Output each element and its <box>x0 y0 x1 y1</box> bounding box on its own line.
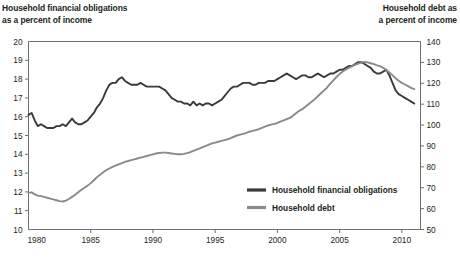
y-axis-tick-label-right: 60 <box>427 204 437 214</box>
y-axis-tick-label-right: 120 <box>427 78 441 88</box>
y-axis-tick-label-right: 90 <box>427 141 437 151</box>
y-axis-tick-label-left: 14 <box>13 149 23 159</box>
y-axis-tick-label-left: 15 <box>13 131 23 141</box>
x-axis-tick-label: 1990 <box>144 235 163 245</box>
y-axis-tick-label-right: 50 <box>427 225 437 235</box>
y-axis-tick-label-right: 70 <box>427 183 437 193</box>
data-line-household-debt <box>29 62 415 202</box>
y-axis-tick-label-left: 19 <box>13 55 23 65</box>
x-axis-tick-label: 1985 <box>81 235 100 245</box>
y-axis-tick-label-left: 11 <box>14 206 23 216</box>
x-axis-tick-label: 2010 <box>393 235 412 245</box>
data-line-household-financial-obligations <box>29 62 415 128</box>
x-axis-tick-label: 1995 <box>206 235 225 245</box>
y-axis-tick-label-left: 18 <box>13 74 23 84</box>
y-axis-tick-label-right: 100 <box>427 120 441 130</box>
y-axis-tick-label-left: 17 <box>13 93 23 103</box>
y-axis-tick-label-left: 12 <box>13 187 23 197</box>
chart-container: Household financial obligations as a per… <box>0 0 460 257</box>
y-axis-tick-label-right: 110 <box>427 99 441 109</box>
y-axis-tick-label-right: 130 <box>427 57 441 67</box>
y-axis-tick-label-left: 13 <box>13 168 23 178</box>
x-axis-tick-label: 1980 <box>28 235 47 245</box>
line-chart-plot: 1011121314151617181920506070809010011012… <box>0 0 460 257</box>
x-axis-tick-label: 2005 <box>330 235 349 245</box>
y-axis-tick-label-right: 80 <box>427 162 437 172</box>
y-axis-tick-label-left: 10 <box>13 225 23 235</box>
legend-label: Household financial obligations <box>272 185 398 195</box>
legend-label: Household debt <box>272 203 335 213</box>
x-axis-tick-label: 2000 <box>268 235 287 245</box>
y-axis-tick-label-left: 20 <box>13 37 23 47</box>
y-axis-tick-label-right: 140 <box>427 37 441 47</box>
y-axis-tick-label-left: 16 <box>13 112 23 122</box>
